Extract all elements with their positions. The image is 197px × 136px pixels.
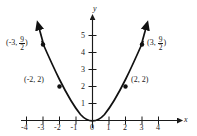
point-pos2 <box>123 84 127 88</box>
fraction-denominator: 2 <box>19 43 25 51</box>
y-tick-label-4: 4 <box>81 49 85 57</box>
x-tick-label--1: -1 <box>71 124 78 132</box>
label-x-value: -3, <box>9 38 18 47</box>
point-label-pos3: (3, 9 2 ) <box>147 36 166 51</box>
y-tick-label-5: 5 <box>81 32 85 40</box>
fraction-numerator: 9 <box>20 36 24 43</box>
y-tick-label-1: 1 <box>81 100 85 108</box>
paren-close: ) <box>25 38 28 47</box>
point-pos3 <box>140 42 144 46</box>
x-axis-label: x <box>184 116 188 124</box>
x-tick-label-3: 3 <box>140 124 144 132</box>
label-x-value: 3, <box>150 38 156 47</box>
point-label-pos2: (2, 2) <box>131 76 148 84</box>
y-tick-label-2: 2 <box>81 83 85 91</box>
y-axis-label: y <box>93 5 97 13</box>
point-neg3 <box>41 42 45 46</box>
coordinate-plane-svg <box>0 0 197 136</box>
point-label-neg2: (-2, 2) <box>24 76 44 84</box>
x-tick-label--3: -3 <box>38 124 45 132</box>
point-label-neg3: (-3, 9 2 ) <box>6 36 28 51</box>
y-tick-label-3: 3 <box>81 66 85 74</box>
x-tick-label-1: 1 <box>107 124 111 132</box>
paren-close: ) <box>163 38 166 47</box>
x-tick-label--2: -2 <box>54 124 61 132</box>
fraction-numerator: 9 <box>159 36 163 43</box>
parabola-figure: -4 -3 -2 -1 0 1 2 3 4 1 2 3 4 5 x y (-3,… <box>0 0 197 136</box>
point-neg2 <box>57 84 61 88</box>
x-tick-label-2: 2 <box>123 124 127 132</box>
fraction-nine-halves: 9 2 <box>158 36 164 51</box>
x-tick-label-0: 0 <box>90 124 94 132</box>
x-tick-label--4: -4 <box>21 124 28 132</box>
x-tick-label-4: 4 <box>156 124 160 132</box>
fraction-denominator: 2 <box>158 43 164 51</box>
fraction-nine-halves: 9 2 <box>19 36 25 51</box>
